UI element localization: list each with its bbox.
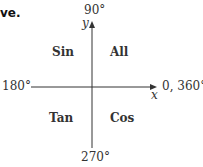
quadrant-all: All	[110, 45, 128, 59]
quadrant-tan: Tan	[49, 111, 73, 125]
label-90: 90°	[84, 3, 105, 17]
label-180: 180°	[2, 79, 31, 93]
label-270: 270°	[81, 150, 110, 164]
y-axis-arrow-icon	[89, 21, 95, 28]
y-axis-label: y	[82, 16, 89, 30]
quadrant-sin: Sin	[52, 45, 74, 59]
x-axis-label: x	[151, 88, 158, 102]
quadrant-cos: Cos	[110, 111, 134, 125]
label-0-360: 0, 360°	[162, 79, 203, 93]
